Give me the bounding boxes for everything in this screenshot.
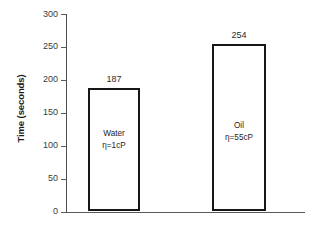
- bar-chart: Time (seconds) 300 250 200 150 100 50 0 …: [0, 0, 313, 240]
- y-tick-mark: [61, 14, 66, 15]
- bar-inner-label-oil: Oil η=55cP: [212, 120, 266, 143]
- bar-inner-label-oil-line1: Oil: [212, 120, 266, 132]
- plot-area: 300 250 200 150 100 50 0 187 Water η=1cP…: [0, 0, 313, 240]
- bar-inner-label-oil-line2: η=55cP: [212, 132, 266, 144]
- y-tick-mark: [61, 47, 66, 48]
- y-tick-mark: [61, 179, 66, 180]
- y-tick-mark: [61, 146, 66, 147]
- y-tick-label: 0: [18, 207, 58, 216]
- y-tick-mark: [61, 212, 66, 213]
- y-axis-line: [66, 14, 67, 212]
- bar-inner-label-water: Water η=1cP: [88, 128, 140, 151]
- y-tick-label: 250: [18, 42, 58, 51]
- bar-value-water: 187: [88, 74, 140, 84]
- bar-inner-label-water-line2: η=1cP: [88, 140, 140, 152]
- y-tick-label: 200: [18, 75, 58, 84]
- bar-inner-label-water-line1: Water: [88, 128, 140, 140]
- y-tick-mark: [61, 113, 66, 114]
- y-tick-label: 300: [18, 10, 58, 19]
- y-tick-label: 150: [18, 108, 58, 117]
- y-tick-mark: [61, 80, 66, 81]
- y-tick-label: 100: [18, 141, 58, 150]
- bar-value-oil: 254: [212, 30, 266, 40]
- y-tick-label: 50: [18, 174, 58, 183]
- x-axis-line: [66, 212, 305, 213]
